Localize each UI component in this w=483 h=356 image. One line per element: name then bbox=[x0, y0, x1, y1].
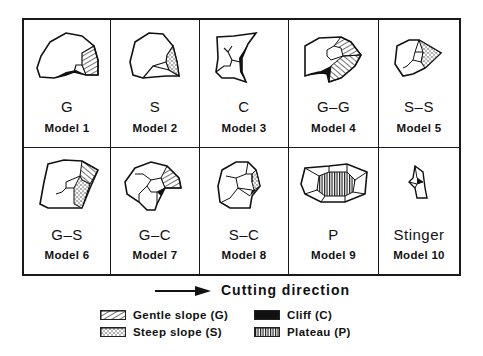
models-grid: G Model 1 S Model 2 C Model 3 G–G M bbox=[22, 18, 461, 276]
model-9-p-icon bbox=[289, 148, 379, 226]
model-4-cell: G–G Model 4 bbox=[289, 20, 379, 148]
legend-steep-slope: Steep slope (S) bbox=[100, 326, 222, 338]
legend-label: Gentle slope (G) bbox=[133, 309, 228, 321]
model-5-ss-icon bbox=[379, 20, 463, 98]
legend-gentle-slope: Gentle slope (G) bbox=[100, 309, 228, 321]
model-code: S bbox=[111, 98, 199, 115]
model-8-sc-icon bbox=[200, 148, 289, 226]
right-arrow-icon bbox=[155, 285, 211, 297]
model-code: P bbox=[289, 226, 378, 243]
model-5-cell: S–S Model 5 bbox=[379, 20, 459, 148]
model-3-c-icon bbox=[200, 20, 289, 98]
model-10-stinger-icon bbox=[379, 148, 463, 226]
legend-label: Plateau (P) bbox=[287, 326, 351, 338]
model-code: G–G bbox=[289, 98, 378, 115]
model-9-cell: P Model 9 bbox=[289, 148, 379, 274]
model-label: Model 10 bbox=[379, 249, 459, 261]
cutting-direction-label: Cutting direction bbox=[221, 282, 350, 298]
model-8-cell: S–C Model 8 bbox=[200, 148, 289, 274]
model-code: C bbox=[200, 98, 288, 115]
model-code: G bbox=[24, 98, 110, 115]
model-6-gs-icon bbox=[24, 148, 111, 226]
model-label: Model 5 bbox=[379, 122, 459, 134]
model-4-gg-icon bbox=[289, 20, 379, 98]
legend: Gentle slope (G) Cliff (C) Steep slope (… bbox=[100, 309, 380, 349]
vertical-hatch-swatch-icon bbox=[254, 327, 280, 337]
model-code: Stinger bbox=[379, 226, 459, 243]
model-label: Model 2 bbox=[111, 122, 199, 134]
stipple-swatch-icon bbox=[100, 327, 126, 337]
model-2-cell: S Model 2 bbox=[111, 20, 200, 148]
legend-cliff: Cliff (C) bbox=[254, 309, 332, 321]
model-label: Model 8 bbox=[200, 249, 288, 261]
model-3-cell: C Model 3 bbox=[200, 20, 289, 148]
legend-plateau: Plateau (P) bbox=[254, 326, 351, 338]
model-label: Model 4 bbox=[289, 122, 378, 134]
model-code: G–S bbox=[24, 226, 110, 243]
model-code: S–C bbox=[200, 226, 288, 243]
model-label: Model 9 bbox=[289, 249, 378, 261]
model-1-g-icon bbox=[24, 20, 111, 98]
model-code: G–C bbox=[111, 226, 199, 243]
cutting-direction: Cutting direction bbox=[155, 282, 405, 300]
model-label: Model 3 bbox=[200, 122, 288, 134]
model-6-cell: G–S Model 6 bbox=[24, 148, 111, 274]
model-7-cell: G–C Model 7 bbox=[111, 148, 200, 274]
model-label: Model 1 bbox=[24, 122, 110, 134]
legend-label: Cliff (C) bbox=[287, 309, 332, 321]
model-code: S–S bbox=[379, 98, 459, 115]
model-7-gc-icon bbox=[111, 148, 200, 226]
model-1-cell: G Model 1 bbox=[24, 20, 111, 148]
model-label: Model 6 bbox=[24, 249, 110, 261]
solid-black-swatch-icon bbox=[254, 310, 280, 320]
model-2-s-icon bbox=[111, 20, 200, 98]
diagonal-hatch-swatch-icon bbox=[100, 310, 126, 320]
model-label: Model 7 bbox=[111, 249, 199, 261]
model-10-cell: Stinger Model 10 bbox=[379, 148, 459, 274]
legend-label: Steep slope (S) bbox=[133, 326, 222, 338]
